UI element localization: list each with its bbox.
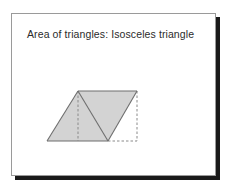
geometry-diagram (42, 84, 147, 146)
slide-frame: Area of triangles: Isosceles triangle (11, 13, 216, 176)
isosceles-triangle-parallelogram-figure (42, 84, 147, 146)
page-title: Area of triangles: Isosceles triangle (27, 28, 207, 41)
screenshot-root: Area of triangles: Isosceles triangle (0, 0, 236, 196)
